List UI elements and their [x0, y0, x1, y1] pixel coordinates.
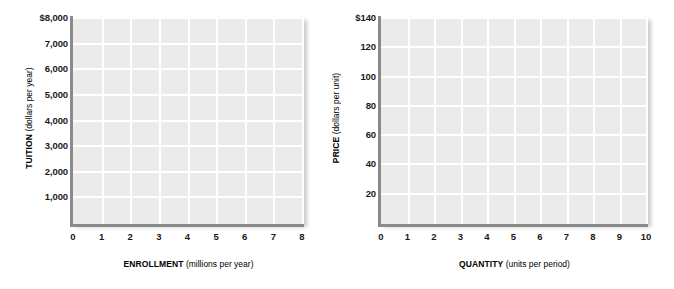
x-axis-title-left-bold: ENROLLMENT [124, 259, 184, 269]
x-tick-label: 4 [176, 232, 200, 242]
gridline-horizontal [73, 171, 304, 173]
x-tick-label: 10 [634, 232, 658, 242]
y-tick-label: 80 [366, 101, 376, 111]
x-axis-title-left-unit: (millions per year) [186, 259, 254, 269]
y-axis-title-right: PRICE (dollars per unit) [331, 43, 341, 193]
gridline-horizontal [73, 43, 304, 45]
x-tick-label: 8 [290, 232, 314, 242]
figure-root: 1,0002,0003,0004,0005,0006,0007,000$8,00… [0, 0, 674, 289]
x-tick-label: 1 [396, 232, 420, 242]
x-axis-line-right [378, 224, 648, 227]
gridline-horizontal [381, 163, 648, 165]
gridline-horizontal [381, 105, 648, 107]
x-axis-title-right-bold: QUANTITY [459, 259, 503, 269]
y-axis-line-right [378, 16, 381, 225]
gridline-horizontal [381, 17, 648, 19]
y-tick-label: $8,000 [40, 13, 68, 23]
x-tick-label: 7 [555, 232, 579, 242]
x-tick-label: 3 [449, 232, 473, 242]
x-tick-label: 2 [422, 232, 446, 242]
y-axis-title-left-bold: TUITION [24, 134, 34, 169]
y-tick-label: 100 [360, 72, 376, 82]
x-tick-label: 0 [61, 232, 85, 242]
gridline-horizontal [73, 17, 304, 19]
y-axis-title-right-unit: (dollars per unit) [331, 73, 341, 134]
y-tick-label: 6,000 [45, 64, 68, 74]
y-axis-title-left: TUITION (dollars per year) [24, 43, 34, 193]
y-tick-label: 1,000 [45, 192, 68, 202]
gridline-horizontal [381, 134, 648, 136]
x-tick-label: 3 [147, 232, 171, 242]
x-tick-label: 7 [261, 232, 285, 242]
gridline-horizontal [73, 145, 304, 147]
x-tick-label: 8 [581, 232, 605, 242]
x-tick-label: 6 [233, 232, 257, 242]
y-tick-label: $140 [355, 13, 376, 23]
gridlines-right [381, 17, 648, 224]
x-tick-label: 4 [475, 232, 499, 242]
gridline-horizontal [73, 196, 304, 198]
gridline-horizontal [73, 94, 304, 96]
plot-area-right [381, 17, 648, 224]
gridline-horizontal [381, 193, 648, 195]
plot-area-left [73, 17, 304, 224]
gridlines-left [73, 17, 304, 224]
x-tick-label: 9 [608, 232, 632, 242]
y-tick-label: 20 [366, 189, 376, 199]
chart-tuition-enrollment: 1,0002,0003,0004,0005,0006,0007,000$8,00… [0, 0, 337, 289]
y-axis-title-left-unit: (dollars per year) [24, 67, 34, 131]
gridline-horizontal [381, 76, 648, 78]
x-tick-label: 5 [502, 232, 526, 242]
x-tick-label: 2 [118, 232, 142, 242]
y-axis-line-left [70, 16, 73, 225]
y-tick-label: 60 [366, 130, 376, 140]
y-tick-label: 2,000 [45, 167, 68, 177]
y-tick-label: 4,000 [45, 116, 68, 126]
x-tick-label: 5 [204, 232, 228, 242]
x-tick-label: 0 [369, 232, 393, 242]
x-axis-title-left: ENROLLMENT (millions per year) [73, 259, 304, 269]
y-tick-label: 120 [360, 42, 376, 52]
x-axis-title-right-unit: (units per period) [506, 259, 570, 269]
chart-price-quantity: 20406080100120$140 012345678910 PRICE (d… [337, 0, 674, 289]
x-axis-line-left [70, 224, 304, 227]
x-tick-label: 6 [528, 232, 552, 242]
gridline-horizontal [381, 46, 648, 48]
gridline-horizontal [73, 120, 304, 122]
x-tick-label: 1 [90, 232, 114, 242]
y-tick-label: 7,000 [45, 39, 68, 49]
y-axis-title-right-bold: PRICE [331, 137, 341, 163]
y-tick-label: 5,000 [45, 90, 68, 100]
x-axis-title-right: QUANTITY (units per period) [381, 259, 648, 269]
y-tick-label: 3,000 [45, 141, 68, 151]
y-tick-label: 40 [366, 159, 376, 169]
gridline-horizontal [73, 68, 304, 70]
